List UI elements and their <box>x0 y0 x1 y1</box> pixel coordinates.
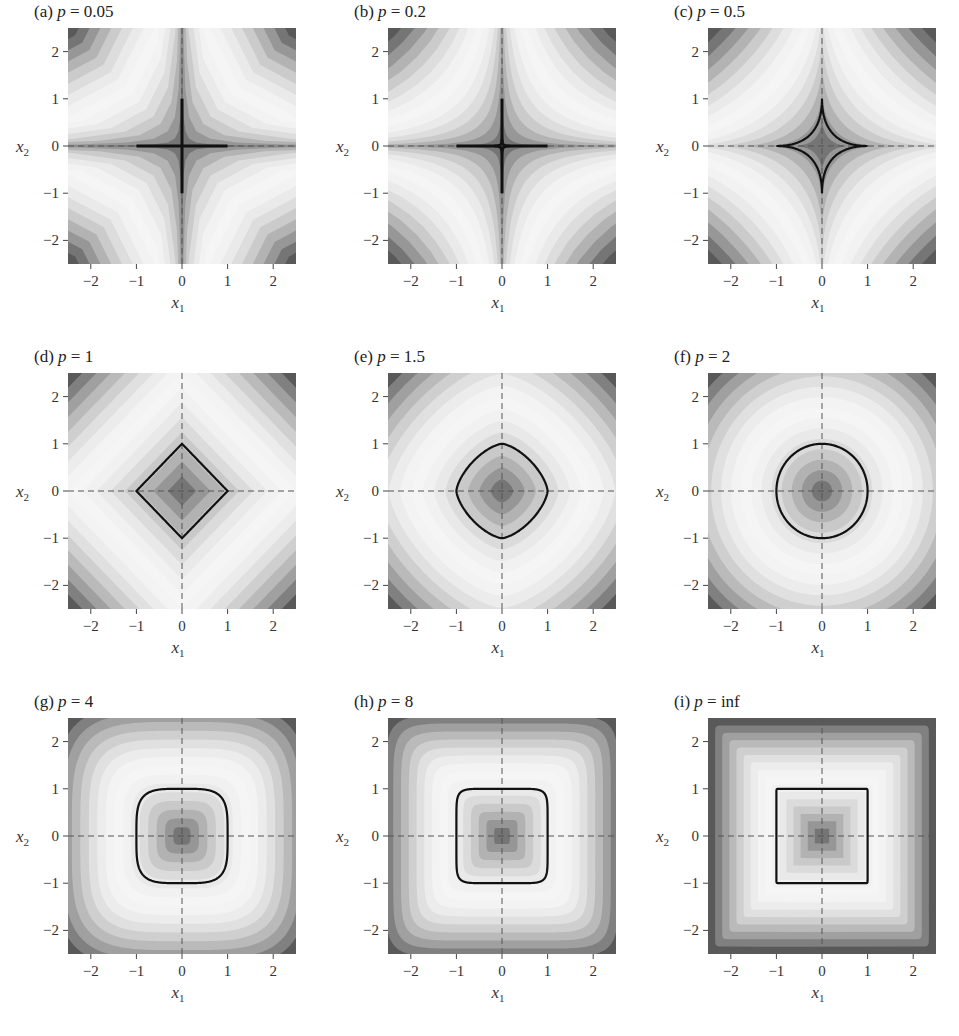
x-axis-label: x1 <box>490 983 504 1004</box>
panel-f: (f) p = 2−2−1012−2−1012x1x2 <box>640 345 940 675</box>
panel-d: (d) p = 1−2−1012−2−1012x1x2 <box>0 345 300 675</box>
svg-text:1: 1 <box>864 963 872 979</box>
svg-text:0: 0 <box>498 963 506 979</box>
svg-text:0: 0 <box>178 618 186 634</box>
svg-text:−1: −1 <box>363 530 379 546</box>
svg-text:−1: −1 <box>128 618 144 634</box>
svg-text:−1: −1 <box>683 185 699 201</box>
svg-text:−2: −2 <box>43 577 59 593</box>
x-axis-label: x1 <box>810 638 824 659</box>
y-axis-label: x2 <box>335 137 349 158</box>
x-axis-label: x1 <box>170 983 184 1004</box>
svg-text:1: 1 <box>52 781 60 797</box>
svg-text:−2: −2 <box>43 232 59 248</box>
svg-text:1: 1 <box>372 91 380 107</box>
contour-plot: −2−1012−2−1012x1x2 <box>320 678 620 1008</box>
svg-text:0: 0 <box>818 618 826 634</box>
svg-text:0: 0 <box>498 618 506 634</box>
svg-text:0: 0 <box>372 828 380 844</box>
y-axis-label: x2 <box>15 482 29 503</box>
svg-text:2: 2 <box>909 963 917 979</box>
svg-text:1: 1 <box>372 436 380 452</box>
svg-text:0: 0 <box>692 828 700 844</box>
svg-text:2: 2 <box>52 44 60 60</box>
svg-text:−1: −1 <box>43 530 59 546</box>
svg-text:0: 0 <box>372 138 380 154</box>
svg-text:−1: −1 <box>683 530 699 546</box>
panel-a: (a) p = 0.05−2−1012−2−1012x1x2 <box>0 0 300 330</box>
svg-text:0: 0 <box>52 828 60 844</box>
y-axis-label: x2 <box>335 827 349 848</box>
svg-text:−1: −1 <box>768 273 784 289</box>
x-axis-label: x1 <box>490 293 504 314</box>
svg-text:−1: −1 <box>448 963 464 979</box>
svg-text:1: 1 <box>52 436 60 452</box>
svg-text:2: 2 <box>372 734 380 750</box>
svg-text:0: 0 <box>178 963 186 979</box>
svg-text:1: 1 <box>224 618 232 634</box>
svg-text:−1: −1 <box>448 273 464 289</box>
svg-text:0: 0 <box>692 483 700 499</box>
x-axis-label: x1 <box>810 983 824 1004</box>
contour-plot: −2−1012−2−1012x1x2 <box>640 678 940 1008</box>
svg-text:2: 2 <box>589 273 597 289</box>
svg-text:−2: −2 <box>363 577 379 593</box>
svg-text:1: 1 <box>692 91 700 107</box>
svg-text:1: 1 <box>544 963 552 979</box>
panel-g: (g) p = 4−2−1012−2−1012x1x2 <box>0 690 300 1020</box>
y-axis-label: x2 <box>335 482 349 503</box>
svg-text:0: 0 <box>178 273 186 289</box>
svg-text:2: 2 <box>909 618 917 634</box>
svg-text:−2: −2 <box>723 963 739 979</box>
svg-text:2: 2 <box>269 963 277 979</box>
x-axis-label: x1 <box>490 638 504 659</box>
svg-text:2: 2 <box>692 734 700 750</box>
svg-text:−2: −2 <box>83 618 99 634</box>
svg-text:−1: −1 <box>128 963 144 979</box>
svg-text:1: 1 <box>864 273 872 289</box>
svg-text:−2: −2 <box>83 963 99 979</box>
svg-text:−1: −1 <box>43 185 59 201</box>
svg-text:−2: −2 <box>403 273 419 289</box>
svg-text:−1: −1 <box>448 618 464 634</box>
svg-text:2: 2 <box>692 44 700 60</box>
panel-c: (c) p = 0.5−2−1012−2−1012x1x2 <box>640 0 940 330</box>
contour-plot: −2−1012−2−1012x1x2 <box>640 0 940 318</box>
svg-text:0: 0 <box>498 273 506 289</box>
svg-text:2: 2 <box>52 389 60 405</box>
svg-text:2: 2 <box>52 734 60 750</box>
svg-text:−2: −2 <box>403 963 419 979</box>
svg-text:2: 2 <box>269 618 277 634</box>
svg-text:2: 2 <box>692 389 700 405</box>
svg-text:2: 2 <box>372 44 380 60</box>
svg-text:−1: −1 <box>683 875 699 891</box>
svg-text:2: 2 <box>909 273 917 289</box>
svg-text:−2: −2 <box>683 922 699 938</box>
y-axis-label: x2 <box>655 137 669 158</box>
y-axis-label: x2 <box>15 137 29 158</box>
svg-text:−1: −1 <box>128 273 144 289</box>
x-axis-label: x1 <box>170 293 184 314</box>
svg-text:0: 0 <box>818 963 826 979</box>
y-axis-label: x2 <box>655 827 669 848</box>
svg-text:−1: −1 <box>768 618 784 634</box>
contour-plot: −2−1012−2−1012x1x2 <box>320 0 620 318</box>
contour-plot: −2−1012−2−1012x1x2 <box>0 333 300 663</box>
svg-text:−2: −2 <box>43 922 59 938</box>
svg-text:−2: −2 <box>683 577 699 593</box>
panel-i: (i) p = inf−2−1012−2−1012x1x2 <box>640 690 940 1020</box>
y-axis-label: x2 <box>15 827 29 848</box>
contour-plot: −2−1012−2−1012x1x2 <box>0 678 300 1008</box>
svg-text:1: 1 <box>864 618 872 634</box>
svg-text:2: 2 <box>589 963 597 979</box>
svg-text:−1: −1 <box>363 875 379 891</box>
svg-text:−1: −1 <box>43 875 59 891</box>
panel-e: (e) p = 1.5−2−1012−2−1012x1x2 <box>320 345 620 675</box>
panel-h: (h) p = 8−2−1012−2−1012x1x2 <box>320 690 620 1020</box>
x-axis-label: x1 <box>810 293 824 314</box>
svg-text:1: 1 <box>544 618 552 634</box>
svg-text:−2: −2 <box>683 232 699 248</box>
svg-text:0: 0 <box>52 138 60 154</box>
svg-text:−1: −1 <box>363 185 379 201</box>
svg-text:1: 1 <box>692 436 700 452</box>
